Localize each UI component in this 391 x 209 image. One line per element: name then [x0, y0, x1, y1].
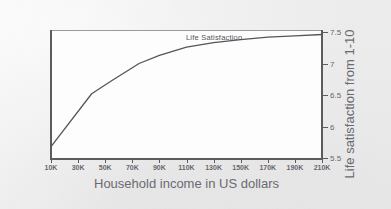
y-tick-label: 7.5: [330, 28, 341, 37]
plot-top-edge: [51, 30, 322, 31]
y-axis-left-line: [50, 30, 52, 160]
x-tick-mark: [132, 158, 133, 163]
x-tick-label: 150K: [232, 164, 249, 171]
figure-container: 10K30K50K70K90K110K130K150K170K190K210K …: [0, 0, 391, 209]
y-tick-mark: [323, 158, 328, 159]
x-axis-title: Household income in US dollars: [51, 176, 322, 191]
y-tick-mark: [323, 32, 328, 33]
y-axis-title: Life satisfaction from 1-10: [342, 30, 357, 179]
x-tick-mark: [268, 158, 269, 163]
x-tick-mark: [241, 158, 242, 163]
x-tick-label: 50K: [99, 164, 112, 171]
y-tick-mark: [323, 127, 328, 128]
x-tick-label: 110K: [178, 164, 194, 171]
x-tick-label: 10K: [45, 164, 58, 171]
plot-area: [51, 31, 322, 158]
x-tick-mark: [159, 158, 160, 163]
y-tick-label: 6: [330, 122, 334, 131]
x-tick-label: 170K: [259, 164, 276, 171]
y-tick-label: 6.5: [330, 91, 341, 100]
x-tick-mark: [51, 158, 52, 163]
y-tick-label: 7: [330, 59, 334, 68]
x-tick-mark: [78, 158, 79, 163]
y-tick-mark: [323, 95, 328, 96]
x-tick-label: 130K: [205, 164, 222, 171]
x-tick-label: 90K: [153, 164, 166, 171]
x-tick-mark: [295, 158, 296, 163]
series-inline-label: Life Satisfaction: [186, 33, 242, 42]
x-tick-mark: [214, 158, 215, 163]
y-tick-mark: [323, 64, 328, 65]
x-tick-mark: [105, 158, 106, 163]
x-tick-label: 210K: [314, 164, 331, 171]
x-tick-mark: [187, 158, 188, 163]
y-tick-label: 5.5: [330, 154, 341, 163]
x-tick-label: 70K: [126, 164, 139, 171]
x-tick-label: 190K: [287, 164, 304, 171]
x-tick-label: 30K: [72, 164, 85, 171]
